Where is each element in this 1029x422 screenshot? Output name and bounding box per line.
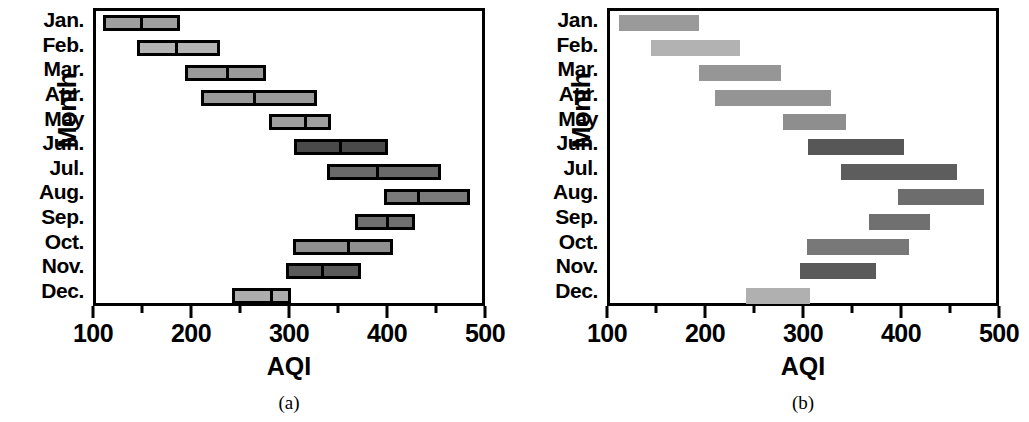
y-axis-tick-label-jan: Jan. <box>0 9 88 30</box>
x-axis-tick-500 <box>998 306 1001 318</box>
bar-row-oct <box>610 235 996 260</box>
bar-row-may <box>610 110 996 135</box>
bar-segment-lower <box>297 142 339 152</box>
bar-segment-lower <box>204 93 253 103</box>
x-axis-tick-label-400: 400 <box>367 319 407 348</box>
range-bar <box>746 288 810 304</box>
x-axis-tick-100 <box>92 306 95 318</box>
y-axis-tick-label-aug: Aug. <box>0 181 88 202</box>
y-axis-category-labels: Jan.Feb.Mar.Apr.MayJun.Jul.Aug.Sep.Oct.N… <box>514 6 602 304</box>
range-bar <box>294 139 388 155</box>
bar-segment-lower <box>387 192 417 202</box>
x-axis <box>93 306 485 318</box>
y-axis-tick-label-aug: Aug. <box>514 181 602 202</box>
x-axis-tick-300 <box>288 306 291 318</box>
bar-segment-lower <box>289 266 321 276</box>
y-axis-tick-label-jan: Jan. <box>514 9 602 30</box>
y-axis-tick-label-jul: Jul. <box>514 157 602 178</box>
x-axis-tick-label-300: 300 <box>783 319 823 348</box>
range-bar <box>800 263 875 279</box>
y-axis-tick-label-nov: Nov. <box>514 255 602 276</box>
x-axis-minor-tick-250 <box>239 306 242 313</box>
x-axis-title: AQI <box>607 352 999 381</box>
y-axis-tick-label-apr: Apr. <box>0 83 88 104</box>
bar-row-apr <box>96 86 482 111</box>
bar-row-mar <box>610 61 996 86</box>
range-bar <box>869 214 931 230</box>
x-axis-tick-100 <box>606 306 609 318</box>
x-axis-tick-400 <box>900 306 903 318</box>
bar-segment-upper <box>307 117 328 127</box>
bar-segment-lower <box>272 117 303 127</box>
y-axis-tick-label-apr: Apr. <box>514 83 602 104</box>
x-axis-tick-labels: 100200300400500 <box>607 319 999 349</box>
bar-segment-lower <box>358 217 386 227</box>
range-bar <box>201 90 318 106</box>
bar-segment-upper <box>342 142 385 152</box>
bar-row-feb <box>610 36 996 61</box>
y-axis-tick-label-may: May <box>0 108 88 129</box>
range-bar <box>137 40 220 56</box>
x-axis-minor-tick-350 <box>851 306 854 313</box>
x-axis-tick-label-200: 200 <box>685 319 725 348</box>
x-axis-minor-tick-150 <box>655 306 658 313</box>
bar-row-apr <box>610 86 996 111</box>
bar-segment-lower <box>188 68 226 78</box>
range-bar <box>293 239 393 255</box>
bar-row-jul <box>610 160 996 185</box>
bar-segment-upper <box>379 167 438 177</box>
y-axis-tick-label-dec: Dec. <box>514 280 602 301</box>
y-axis-tick-label-jun: Jun. <box>514 132 602 153</box>
bar-row-jun <box>610 135 996 160</box>
y-axis-tick-label-mar: Mar. <box>0 58 88 79</box>
y-axis-tick-label-sep: Sep. <box>0 206 88 227</box>
y-axis-tick-label-sep: Sep. <box>514 206 602 227</box>
range-bar <box>898 189 984 205</box>
y-axis-tick-label-may: May <box>514 108 602 129</box>
bar-row-jun <box>96 135 482 160</box>
x-axis-title: AQI <box>93 352 485 381</box>
bar-segment-upper <box>256 93 315 103</box>
x-axis-tick-label-300: 300 <box>269 319 309 348</box>
x-axis-minor-tick-150 <box>141 306 144 313</box>
range-bar <box>619 15 699 31</box>
range-bar <box>232 288 291 304</box>
y-axis-category-labels: Jan.Feb.Mar.Apr.MayJun.Jul.Aug.Sep.Oct.N… <box>0 6 88 304</box>
plot-area <box>607 8 999 306</box>
range-bar <box>699 65 780 81</box>
x-axis-tick-200 <box>704 306 707 318</box>
x-axis-minor-tick-350 <box>337 306 340 313</box>
bar-row-aug <box>610 185 996 210</box>
range-bar <box>355 214 416 230</box>
range-bar <box>651 40 740 56</box>
y-axis-tick-label-feb: Feb. <box>514 34 602 55</box>
y-axis-tick-label-feb: Feb. <box>0 34 88 55</box>
x-axis-tick-500 <box>484 306 487 318</box>
range-bar <box>783 114 846 130</box>
bar-group <box>96 11 482 303</box>
x-axis <box>607 306 999 318</box>
x-axis-tick-label-500: 500 <box>979 319 1019 348</box>
bar-segment-upper <box>273 291 288 301</box>
bar-segment-upper <box>143 18 177 28</box>
y-axis-tick-label-nov: Nov. <box>0 255 88 276</box>
x-axis-tick-label-200: 200 <box>171 319 211 348</box>
y-axis-tick-label-mar: Mar. <box>514 58 602 79</box>
bar-row-may <box>96 110 482 135</box>
y-axis-tick-label-jun: Jun. <box>0 132 88 153</box>
bar-row-nov <box>96 259 482 284</box>
range-bar <box>327 164 441 180</box>
x-axis-tick-label-100: 100 <box>73 319 113 348</box>
x-axis-tick-label-500: 500 <box>465 319 505 348</box>
bar-segment-lower <box>106 18 140 28</box>
bar-segment-upper <box>324 266 357 276</box>
bar-segment-upper <box>229 68 262 78</box>
range-bar <box>384 189 470 205</box>
x-axis-tick-200 <box>190 306 193 318</box>
bar-group <box>610 11 996 303</box>
bar-segment-upper <box>420 192 467 202</box>
y-axis-tick-label-oct: Oct. <box>514 231 602 252</box>
range-bar <box>715 90 832 106</box>
bar-row-aug <box>96 185 482 210</box>
x-axis-tick-labels: 100200300400500 <box>93 319 485 349</box>
